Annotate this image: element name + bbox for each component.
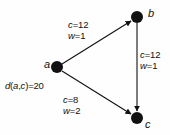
node-b: [131, 11, 143, 23]
node-label-c: c: [145, 119, 151, 130]
edge-label-a-b: c=12 w=1: [68, 19, 88, 41]
edge-label-a-c: c=8 w=2: [63, 94, 80, 116]
edge-b-c-weight: w=1: [140, 60, 160, 71]
edge-a-b-weight: w=1: [68, 30, 88, 41]
edge-b-c-capacity: c=12: [140, 49, 160, 60]
node-c: [131, 112, 143, 124]
node-label-a: a: [44, 59, 50, 70]
edge-a-c-weight: w=2: [63, 105, 80, 116]
node-label-b: b: [148, 8, 154, 19]
edge-label-b-c: c=12 w=1: [140, 49, 160, 71]
distance-annotation: d(a,c)=20: [5, 80, 44, 91]
node-a: [51, 61, 63, 73]
graph-figure: a b c c=12 w=1 c=12 w=1 c=8 w=2 d(a,c)=2…: [0, 0, 170, 135]
edge-a-b-capacity: c=12: [68, 19, 88, 30]
edge-a-c-capacity: c=8: [63, 94, 80, 105]
